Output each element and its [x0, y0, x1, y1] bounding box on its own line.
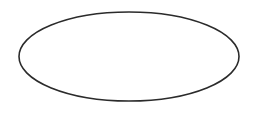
canvas-background — [0, 0, 256, 114]
drawing-canvas — [0, 0, 256, 114]
ellipse-diagram — [0, 0, 256, 114]
